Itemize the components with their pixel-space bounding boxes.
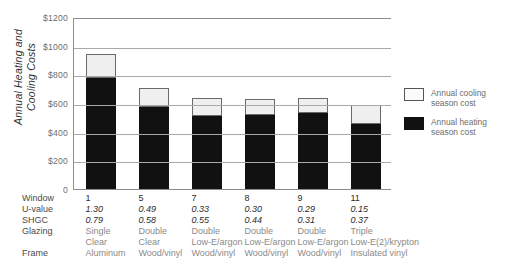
table-row-label: Frame	[22, 248, 74, 258]
table-cell: 0.33	[192, 204, 210, 214]
bar-segment-cooling	[86, 54, 116, 78]
legend-label-line: season cost	[431, 127, 487, 137]
table-cell: 9	[298, 193, 303, 203]
y-axis-tick-label: $600	[48, 99, 68, 109]
y-axis-tick-labels: 0$200$400$600$800$1000$1200	[0, 0, 73, 190]
gridline	[74, 48, 391, 49]
bar-stack	[298, 98, 328, 190]
y-axis-tick-label: $200	[48, 156, 68, 166]
table-cell: Double	[245, 226, 274, 236]
table-cell: Low-E/argon	[245, 237, 296, 247]
table-row: FrameAluminumWood/vinylWood/vinylWood/vi…	[0, 248, 523, 259]
legend-label-line: Annual heating	[431, 117, 487, 127]
table-row: GlazingSingleDoubleDoubleDoubleDoubleTri…	[0, 226, 523, 237]
table-cell: Wood/vinyl	[245, 248, 289, 258]
bar-segment-heating	[298, 113, 328, 190]
y-axis-tick-label: $1200	[43, 13, 68, 23]
legend-item: Annual coolingseason cost	[404, 88, 523, 108]
table-cell: Double	[192, 226, 221, 236]
legend-label: Annual coolingseason cost	[431, 88, 486, 108]
table-cell: 1.30	[86, 204, 104, 214]
bar-stack	[192, 98, 222, 190]
table-cell: Wood/vinyl	[139, 248, 183, 258]
bar-stack	[86, 54, 116, 190]
bar-segment-heating	[192, 116, 222, 190]
legend-label: Annual heatingseason cost	[431, 117, 487, 137]
gridline	[74, 105, 391, 106]
x-axis-line	[74, 189, 391, 190]
table-cell: 7	[192, 193, 197, 203]
table-row-label: Glazing	[22, 226, 74, 236]
table-cell: Clear	[86, 237, 108, 247]
y-axis-tick-label: $400	[48, 128, 68, 138]
table-cell: 0.49	[139, 204, 157, 214]
table-cell: 0.44	[245, 215, 263, 225]
bar-segment-cooling	[139, 88, 169, 107]
table-cell: 0.55	[192, 215, 210, 225]
table-cell: Clear	[139, 237, 161, 247]
bar-segment-cooling	[192, 98, 222, 117]
bar-stack	[139, 88, 169, 190]
bar-stack	[245, 99, 275, 190]
table-cell: 8	[245, 193, 250, 203]
table-cell: 0.15	[351, 204, 369, 214]
table-cell: Triple	[351, 226, 373, 236]
table-cell: 0.30	[245, 204, 263, 214]
table-cell: Wood/vinyl	[298, 248, 342, 258]
table-cell: Low-E/argon	[192, 237, 243, 247]
plot-area	[73, 18, 391, 190]
table-cell: 0.31	[298, 215, 316, 225]
legend-item: Annual heatingseason cost	[404, 117, 523, 137]
table-cell: 0.79	[86, 215, 104, 225]
bar-segment-cooling	[351, 105, 381, 124]
table-cell: Low-E/argon	[298, 237, 349, 247]
table-cell: Aluminum	[86, 248, 126, 258]
table-row: Window1578911	[0, 193, 523, 204]
table-cell: 1	[86, 193, 91, 203]
table-row-label: SHGC	[22, 215, 74, 225]
table-row: ClearClearLow-E/argonLow-E/argonLow-E/ar…	[0, 237, 523, 248]
legend-label-line: Annual cooling	[431, 88, 486, 98]
bar-segment-cooling	[245, 99, 275, 115]
chart-figure: Annual Heating and Cooling Costs 0$200$4…	[0, 0, 523, 276]
table-cell: Double	[139, 226, 168, 236]
table-cell: Insulated vinyl	[351, 248, 408, 258]
table-row: SHGC0.790.580.550.440.310.37	[0, 215, 523, 226]
legend-swatch-cool	[404, 88, 424, 101]
gridline	[74, 76, 391, 77]
table-cell: Wood/vinyl	[192, 248, 236, 258]
table-cell: 0.29	[298, 204, 316, 214]
table-cell: Single	[86, 226, 111, 236]
bar-stack	[351, 105, 381, 190]
table-cell: 0.37	[351, 215, 369, 225]
legend-label-line: season cost	[431, 98, 486, 108]
table-cell: 11	[351, 193, 360, 203]
bar-segment-heating	[245, 115, 275, 190]
table-cell: 0.58	[139, 215, 157, 225]
table-cell: Low-E(2)/krypton	[351, 237, 420, 247]
chart-legend: Annual coolingseason costAnnual heatings…	[404, 88, 523, 146]
table-cell: 5	[139, 193, 144, 203]
table-row: U-value1.300.490.330.300.290.15	[0, 204, 523, 215]
table-row-label: U-value	[22, 204, 74, 214]
bar-segment-heating	[139, 107, 169, 190]
y-axis-tick-label: $1000	[43, 42, 68, 52]
gridline	[74, 162, 391, 163]
legend-swatch-heat	[404, 117, 424, 130]
table-row-label: Window	[22, 193, 74, 203]
y-axis-tick-label: $800	[48, 70, 68, 80]
table-cell: Double	[298, 226, 327, 236]
window-properties-table: Window1578911U-value1.300.490.330.300.29…	[0, 193, 523, 259]
gridline	[74, 134, 391, 135]
